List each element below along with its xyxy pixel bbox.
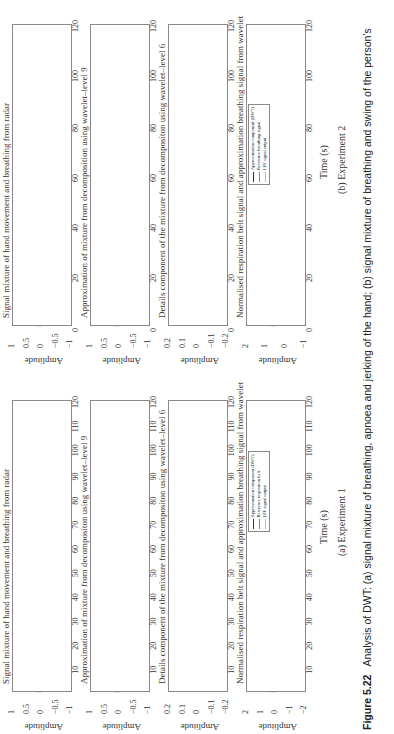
figure-number: Figure 5.22 (361, 675, 373, 730)
x-tick: 110 (71, 420, 80, 432)
x-tick: 10 (305, 666, 314, 674)
y-tick: −1 (299, 339, 308, 348)
x-tick: 120 (149, 20, 158, 32)
legend-item: LPF signal output (262, 455, 268, 530)
sublabel-a: (a) Experiment 1 (336, 488, 347, 556)
legend-item: LPF signal output (262, 107, 268, 182)
x-tick: 120 (71, 20, 80, 32)
x-tick: 60 (305, 174, 314, 182)
legend-swatch (253, 172, 254, 182)
y-tick: 1 (7, 710, 16, 714)
y-axis-label: Amplitude (259, 722, 298, 732)
legend-label: LPF signal output (262, 485, 268, 517)
y-tick: −1 (65, 705, 74, 714)
y-axis-label: Amplitude (25, 722, 64, 732)
x-tick: 100 (305, 70, 314, 82)
y-tick: −0.1 (207, 333, 216, 348)
y-tick: −1 (143, 339, 152, 348)
y-tick: 1 (85, 344, 94, 348)
x-tick: 120 (71, 396, 80, 408)
y-tick: 0 (192, 710, 201, 714)
plot-area (168, 24, 228, 326)
x-tick: 80 (305, 497, 314, 505)
y-tick: −0.1 (207, 699, 216, 714)
y-axis-label: Amplitude (181, 356, 220, 366)
y-tick: −1 (285, 705, 294, 714)
x-tick: 20 (305, 274, 314, 282)
x-tick: 120 (149, 396, 158, 408)
panel-title: Approximation of mixture from decomposit… (79, 67, 89, 318)
y-tick: 0.1 (178, 338, 187, 348)
x-tick: 100 (305, 444, 314, 456)
panel-title: Normalised respiration belt signal and a… (235, 382, 245, 684)
x-tick: 0 (227, 328, 236, 332)
legend: Approximation component (DWT)Reference b… (248, 104, 270, 185)
y-tick: 0 (270, 710, 279, 714)
panel-title: Signal mixture of hand movement and brea… (1, 469, 11, 684)
x-tick: 120 (305, 396, 314, 408)
panel-title: Details component of the mixture from de… (157, 44, 167, 318)
x-tick: 80 (305, 124, 314, 132)
plot-area (90, 24, 150, 326)
y-tick: −1 (65, 339, 74, 348)
y-tick: −0.5 (129, 333, 138, 348)
panel-title: Approximation of mixture from decomposit… (79, 436, 89, 684)
y-tick: 0 (36, 710, 45, 714)
x-tick: 0 (71, 328, 80, 332)
y-tick: 0.1 (178, 704, 187, 714)
plot-area (12, 24, 72, 326)
y-tick: 0.5 (22, 704, 31, 714)
y-tick: 0 (36, 344, 45, 348)
y-tick: 0 (114, 344, 123, 348)
y-tick: 1 (260, 344, 269, 348)
x-tick: 40 (305, 593, 314, 601)
y-tick: 0 (114, 710, 123, 714)
legend-swatch (265, 172, 266, 182)
panel-title: Details component of the mixture from de… (157, 410, 167, 684)
y-tick: 1 (7, 344, 16, 348)
x-tick: 60 (305, 545, 314, 553)
plot-area (90, 400, 150, 692)
y-tick: 0.5 (22, 338, 31, 348)
sublabel-b: (b) Experiment 2 (336, 126, 347, 194)
x-tick: 40 (305, 224, 314, 232)
y-tick: −0.5 (129, 699, 138, 714)
y-axis-label: Amplitude (181, 722, 220, 732)
y-axis-label: Amplitude (25, 356, 64, 366)
y-tick: 0.5 (100, 338, 109, 348)
legend-swatch (253, 520, 254, 530)
y-tick: 0.2 (163, 338, 172, 348)
x-tick: 120 (305, 20, 314, 32)
y-tick: 0 (192, 344, 201, 348)
y-tick: −0.2 (221, 333, 230, 348)
legend: Approximation component (DWT)Reference r… (248, 452, 270, 533)
legend-label: LPF signal output (262, 138, 268, 170)
y-tick: −0.2 (221, 699, 230, 714)
xlabel-b: Time (s) (318, 145, 329, 179)
y-tick: −0.5 (51, 333, 60, 348)
y-tick: 0.2 (163, 704, 172, 714)
y-tick: −2 (299, 705, 308, 714)
plot-area (168, 400, 228, 692)
y-tick: 2 (241, 344, 250, 348)
y-tick: −0.5 (51, 699, 60, 714)
caption-text: Analysis of DWT: (a) signal mixture of b… (361, 28, 373, 666)
plot-area (12, 400, 72, 692)
y-axis-label: Amplitude (259, 356, 298, 366)
y-axis-label: Amplitude (103, 722, 142, 732)
x-tick: 20 (305, 642, 314, 650)
legend-swatch (259, 172, 260, 182)
x-tick: 110 (305, 420, 314, 432)
panel-title: Normalised respiration belt signal and a… (235, 16, 245, 318)
x-tick: 0 (305, 328, 314, 332)
panel-title: Signal mixture of hand movement and brea… (1, 103, 11, 318)
figure-canvas: Time (s) (a) Experiment 1 Time (s) (b) E… (0, 0, 394, 734)
x-tick: 30 (305, 618, 314, 626)
y-tick: 1 (85, 710, 94, 714)
y-axis-label: Amplitude (103, 356, 142, 366)
y-tick: 0.5 (100, 704, 109, 714)
plot-area (246, 400, 306, 692)
x-tick: 50 (305, 569, 314, 577)
x-tick: 70 (305, 521, 314, 529)
y-tick: 0 (280, 344, 289, 348)
